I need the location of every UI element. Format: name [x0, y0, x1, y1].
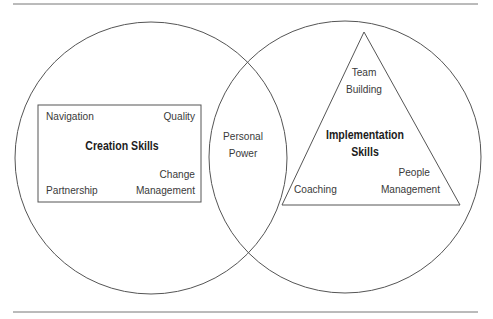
label-skills: Skills [317, 144, 414, 160]
label-people: People [377, 164, 430, 180]
label-coaching: Coaching [294, 181, 337, 197]
label-navigation: Navigation [46, 108, 94, 124]
label-partnership: Partnership [46, 182, 98, 198]
label-implementation: Implementation [317, 127, 414, 143]
label-quality: Quality [155, 108, 195, 124]
label-creation-skills: Creation Skills [67, 138, 176, 154]
label-change: Change [138, 166, 195, 182]
label-management: Management [129, 182, 195, 198]
label-power: Power [217, 145, 270, 161]
label-personal: Personal [217, 128, 270, 144]
label-people-management: Management [370, 181, 440, 197]
label-team: Team [338, 64, 391, 80]
label-building: Building [338, 81, 391, 97]
implementation-triangle [282, 32, 460, 205]
